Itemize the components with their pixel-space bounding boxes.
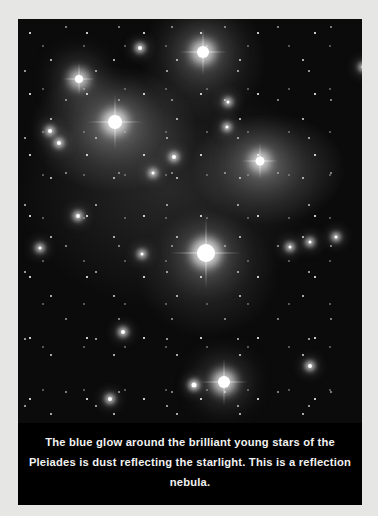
star (308, 364, 312, 368)
star (362, 66, 363, 69)
diffraction-spike (224, 358, 225, 406)
star (335, 236, 338, 239)
diffraction-spike (79, 63, 80, 95)
diffraction-spike (115, 94, 116, 150)
star (39, 247, 42, 250)
star (121, 330, 125, 334)
star (76, 214, 80, 218)
star (226, 126, 229, 129)
star (141, 253, 144, 256)
star (48, 129, 52, 133)
star (57, 141, 61, 145)
pleiades-photo (18, 19, 362, 423)
star (227, 101, 230, 104)
background-starfield (18, 19, 362, 423)
star (172, 155, 176, 159)
figure-card: The blue glow around the brilliant young… (18, 19, 362, 505)
star (192, 383, 197, 388)
diffraction-spike (206, 217, 207, 289)
diffraction-spike (203, 28, 204, 76)
star (152, 172, 155, 175)
diffraction-spike (260, 143, 261, 179)
star (309, 241, 312, 244)
star (289, 246, 292, 249)
figure-caption: The blue glow around the brilliant young… (18, 423, 362, 505)
star (108, 397, 112, 401)
star (138, 46, 142, 50)
